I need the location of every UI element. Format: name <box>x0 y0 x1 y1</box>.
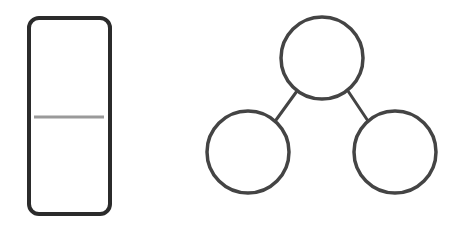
panel <box>29 18 110 214</box>
tree-node-right-child <box>354 111 436 193</box>
diagram-canvas <box>0 0 457 228</box>
tree-node-root <box>281 17 363 99</box>
tree-edge-root-right <box>348 91 368 121</box>
tree-node-left-child <box>207 111 289 193</box>
tree-diagram <box>207 17 436 193</box>
tree-edge-root-left <box>276 91 297 120</box>
